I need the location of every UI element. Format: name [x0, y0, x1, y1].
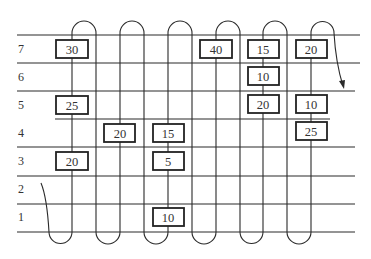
arrow-head-icon	[339, 80, 345, 89]
box-r6-c6: 10	[248, 67, 279, 85]
box-r7-c5: 40	[200, 40, 232, 58]
svg-text:10: 10	[305, 98, 318, 112]
row-label-5: 5	[18, 98, 24, 112]
row-label-2: 2	[18, 182, 24, 196]
route-diagram: 7 6 5 4 3 2 1 30 40 15 20 10 25 20 10 20…	[0, 0, 371, 259]
svg-text:10: 10	[162, 211, 175, 225]
box-r5-c7: 10	[296, 95, 327, 113]
svg-text:30: 30	[66, 43, 79, 57]
row-label-3: 3	[18, 154, 24, 168]
box-r1-c4: 10	[153, 208, 184, 226]
box-r4-c7: 25	[296, 122, 327, 140]
row-label-4: 4	[18, 126, 24, 140]
box-r7-c6: 15	[248, 40, 279, 58]
box-r4-c3: 20	[104, 124, 135, 142]
box-r7-c7: 20	[296, 40, 327, 58]
box-r4-c4: 15	[153, 124, 184, 142]
box-r5-c1: 25	[56, 96, 88, 114]
svg-text:40: 40	[210, 43, 223, 57]
svg-text:15: 15	[257, 43, 270, 57]
svg-text:25: 25	[66, 99, 79, 113]
row-label-6: 6	[18, 70, 24, 84]
svg-text:20: 20	[66, 155, 79, 169]
box-r5-c6: 20	[248, 95, 279, 113]
box-r3-c1: 20	[56, 152, 88, 170]
svg-text:5: 5	[165, 155, 171, 169]
svg-text:20: 20	[257, 98, 270, 112]
box-r3-c4: 5	[153, 152, 184, 170]
box-r7-c1: 30	[56, 40, 88, 58]
row-label-1: 1	[18, 210, 24, 224]
row-label-7: 7	[18, 42, 24, 56]
svg-text:15: 15	[162, 127, 175, 141]
svg-text:20: 20	[114, 127, 127, 141]
svg-text:25: 25	[305, 125, 318, 139]
svg-text:10: 10	[257, 70, 270, 84]
row-labels: 7 6 5 4 3 2 1	[18, 42, 24, 224]
svg-text:20: 20	[305, 43, 318, 57]
